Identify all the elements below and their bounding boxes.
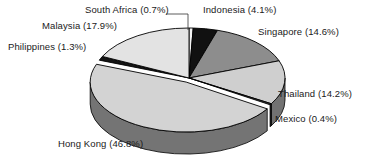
slice-label-mexico: Mexico (0.4%) [275, 113, 337, 124]
slice-label-thailand: Thailand (14.2%) [278, 88, 352, 99]
pie-chart-figure: South Africa (0.7%) Indonesia (4.1%) Mal… [0, 0, 375, 156]
slice-label-south-africa: South Africa (0.7%) [85, 4, 169, 15]
slice-label-singapore: Singapore (14.6%) [258, 26, 339, 37]
slice-label-philippines: Philippines (1.3%) [8, 41, 86, 52]
pie-top-faces [90, 28, 285, 132]
pie-slice-side-mexico [270, 104, 271, 127]
slice-label-malaysia: Malaysia (17.9%) [42, 20, 117, 31]
slice-label-hong-kong: Hong Kong (46.8%) [58, 138, 143, 149]
slice-label-indonesia: Indonesia (4.1%) [203, 4, 276, 15]
